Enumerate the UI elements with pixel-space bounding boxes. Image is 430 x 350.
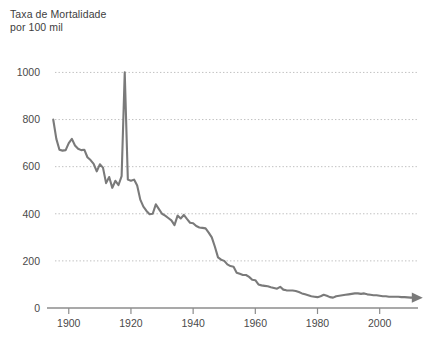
chart-container: Taxa de Mortalidadepor 100 mil 020040060… bbox=[0, 0, 430, 350]
data-series-line bbox=[53, 72, 423, 302]
y-tick-label: 1000 bbox=[17, 66, 41, 78]
x-tick-label: 1900 bbox=[57, 317, 81, 329]
y-tick-label: 600 bbox=[22, 160, 40, 172]
y-tick-label: 800 bbox=[22, 113, 40, 125]
x-tick-label: 1940 bbox=[181, 317, 205, 329]
x-tick-label: 1960 bbox=[244, 317, 268, 329]
x-axis-tick-labels: 190019201940196019802000 bbox=[57, 317, 391, 329]
y-axis-tick-labels: 02004006008001000 bbox=[17, 66, 41, 314]
x-axis bbox=[47, 308, 418, 314]
series-end-arrow-icon bbox=[412, 292, 423, 302]
mortality-rate-line bbox=[53, 72, 411, 297]
x-tick-label: 2000 bbox=[368, 317, 392, 329]
gridlines bbox=[55, 72, 418, 260]
x-tick-label: 1980 bbox=[306, 317, 330, 329]
y-tick-label: 200 bbox=[22, 255, 40, 267]
x-tick-label: 1920 bbox=[119, 317, 143, 329]
y-tick-label: 0 bbox=[34, 302, 40, 314]
y-tick-label: 400 bbox=[22, 208, 40, 220]
mortality-rate-line-chart: 02004006008001000 1900192019401960198020… bbox=[0, 0, 430, 350]
